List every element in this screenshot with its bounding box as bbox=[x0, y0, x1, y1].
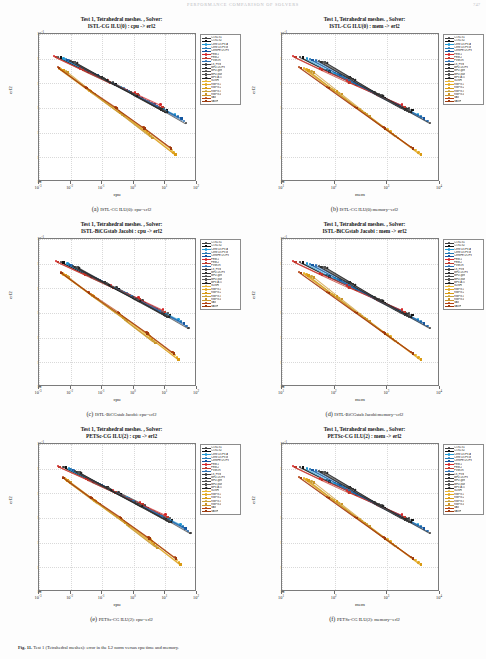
x-tick-label: 102 bbox=[331, 184, 337, 190]
gridline-h bbox=[282, 444, 438, 445]
gridline-v bbox=[335, 239, 336, 385]
x-tick-mark bbox=[439, 591, 440, 594]
data-point bbox=[151, 137, 153, 139]
x-tick-label: 101 bbox=[278, 594, 284, 600]
gridline-h bbox=[39, 444, 195, 445]
x-tick-mark bbox=[386, 181, 387, 184]
panel-title-line2: ISTL-BiCGstab Jacobi : mem -> erl2 bbox=[243, 228, 486, 235]
legend[interactable]: COSJ-s1COSJ-s2Certe DOFV-ACerte DOFV-BCe… bbox=[200, 444, 241, 515]
x-tick-label: 104 bbox=[436, 389, 442, 395]
paper-page: PERFORMANCE COMPARISON OF SOLVERS 747 Te… bbox=[0, 0, 486, 659]
gridline-h bbox=[39, 34, 195, 35]
x-tick-label: 10-3 bbox=[35, 594, 42, 600]
panel-caption-label: (e) bbox=[90, 615, 98, 622]
plot-area bbox=[38, 443, 196, 591]
x-tick-mark bbox=[281, 386, 282, 389]
gridline-h bbox=[39, 239, 195, 240]
panel-title: Test 1, Tetrahedral meshes. , Solver:IST… bbox=[0, 16, 243, 29]
legend-item[interactable]: VAGH bbox=[445, 100, 482, 103]
plot-area bbox=[38, 238, 196, 386]
legend-item[interactable]: VAGH bbox=[202, 100, 239, 103]
x-tick-label: 10-1 bbox=[98, 594, 105, 600]
panel-title-line1: Test 1, Tetrahedral meshes. , Solver: bbox=[0, 16, 243, 23]
y-axis-label: erl2 bbox=[251, 291, 256, 299]
x-tick-label: 103 bbox=[383, 594, 389, 600]
x-tick-label: 102 bbox=[331, 389, 337, 395]
x-tick-mark bbox=[101, 181, 102, 184]
x-tick-label: 104 bbox=[436, 594, 442, 600]
legend[interactable]: COSJ-s1COSJ-s2Certe DOFV-ACerte DOFV-BCe… bbox=[200, 34, 241, 105]
panel-title-line2: PETSc-CG ILU(2) : cpu -> erl2 bbox=[0, 433, 243, 440]
x-tick-mark bbox=[101, 591, 102, 594]
figure-caption-label: Fig. 11. bbox=[18, 645, 32, 650]
panel-caption: (d) ISTL-BiCGstab Jacobi:memory--erl2 bbox=[243, 410, 486, 417]
x-tick-mark bbox=[38, 386, 39, 389]
x-tick-label: 102 bbox=[331, 594, 337, 600]
gridline-v bbox=[134, 34, 135, 180]
x-tick-mark bbox=[70, 181, 71, 184]
gridline-v bbox=[387, 444, 388, 590]
legend[interactable]: COSJ-s1COSJ-s2Certe DOFV-ACerte DOFV-BCe… bbox=[200, 239, 241, 310]
x-tick-mark bbox=[38, 181, 39, 184]
panel-caption-label: (a) bbox=[92, 205, 100, 212]
panel-title-line2: ISTL-CG ILU(0) : cpu -> erl2 bbox=[0, 23, 243, 30]
gridline-v bbox=[282, 34, 283, 180]
x-tick-mark bbox=[133, 591, 134, 594]
legend[interactable]: COSJ-s1COSJ-s2Certe DOFV-ACerte DOFV-BCe… bbox=[443, 444, 484, 515]
legend-item[interactable]: VAGH bbox=[445, 510, 482, 513]
x-tick-label: 10-3 bbox=[35, 184, 42, 190]
y-axis-label: erl2 bbox=[8, 496, 13, 504]
x-tick-label: 102 bbox=[193, 184, 199, 190]
gridline-h bbox=[282, 133, 438, 134]
gridline-v bbox=[387, 34, 388, 180]
x-tick-label: 10-1 bbox=[98, 184, 105, 190]
x-axis-label: cpu bbox=[38, 602, 196, 607]
legend[interactable]: COSJ-s1COSJ-s2Certe DOFV-ACerte DOFV-BCe… bbox=[443, 239, 484, 310]
panel-title-line1: Test 1, Tetrahedral meshes. , Solver: bbox=[0, 426, 243, 433]
data-point bbox=[179, 563, 181, 565]
plot-area bbox=[38, 33, 196, 181]
panel-title: Test 1, Tetrahedral meshes. , Solver:PET… bbox=[0, 426, 243, 439]
x-tick-mark bbox=[164, 591, 165, 594]
figure-row: Test 1, Tetrahedral meshes. , Solver:PET… bbox=[0, 424, 486, 629]
x-tick-mark bbox=[101, 386, 102, 389]
legend-item[interactable]: VAGH bbox=[202, 305, 239, 308]
x-tick-mark bbox=[281, 591, 282, 594]
legend-label: VAGH bbox=[211, 100, 218, 103]
x-tick-label: 100 bbox=[130, 184, 136, 190]
figure-panel-e: Test 1, Tetrahedral meshes. , Solver:PET… bbox=[0, 424, 243, 629]
x-axis-label: cpu bbox=[38, 192, 196, 197]
panel-caption: (b) ISTL-CG ILU(0):memory--erl2 bbox=[243, 205, 486, 212]
gridline-h bbox=[39, 338, 195, 339]
panel-caption-text: PETSc-CG ILU(2): memory--erl2 bbox=[337, 617, 400, 622]
legend-item[interactable]: VAGH bbox=[202, 510, 239, 513]
y-axis-label: erl2 bbox=[8, 86, 13, 94]
gridline-v bbox=[71, 34, 72, 180]
panel-caption-text: ISTL-BiCGstab Jacobi:memory--erl2 bbox=[334, 412, 403, 417]
gridline-h bbox=[282, 239, 438, 240]
legend-item[interactable]: VAGH bbox=[445, 305, 482, 308]
legend[interactable]: COSJ-s1COSJ-s2Certe DOFV-ACerte DOFV-BCe… bbox=[443, 34, 484, 105]
x-tick-label: 10-3 bbox=[35, 389, 42, 395]
data-point bbox=[420, 358, 422, 360]
panel-caption: (e) PETSc-CG ILU(2): cpu--erl2 bbox=[0, 615, 243, 622]
panel-caption-text: ISTL-BiCGstab Jacobi: cpu--erl2 bbox=[95, 412, 157, 417]
x-tick-mark bbox=[386, 386, 387, 389]
x-axis-label: mem bbox=[281, 602, 439, 607]
gridline-v bbox=[134, 239, 135, 385]
x-tick-label: 100 bbox=[130, 389, 136, 395]
x-tick-mark bbox=[196, 386, 197, 389]
data-point bbox=[412, 557, 414, 559]
legend-label: VAGH bbox=[454, 305, 461, 308]
x-tick-mark bbox=[133, 181, 134, 184]
gridline-h bbox=[39, 543, 195, 544]
panel-title: Test 1, Tetrahedral meshes. , Solver:IST… bbox=[0, 221, 243, 234]
legend-marker-icon bbox=[202, 305, 211, 308]
plot-area bbox=[281, 238, 439, 386]
plot-area bbox=[281, 33, 439, 181]
x-tick-label: 101 bbox=[278, 389, 284, 395]
gridline-h bbox=[282, 157, 438, 158]
figure-grid: Test 1, Tetrahedral meshes. , Solver:IST… bbox=[0, 14, 486, 629]
legend-marker-icon bbox=[445, 305, 454, 308]
panel-caption-text: PETSc-CG ILU(2): cpu--erl2 bbox=[99, 617, 153, 622]
